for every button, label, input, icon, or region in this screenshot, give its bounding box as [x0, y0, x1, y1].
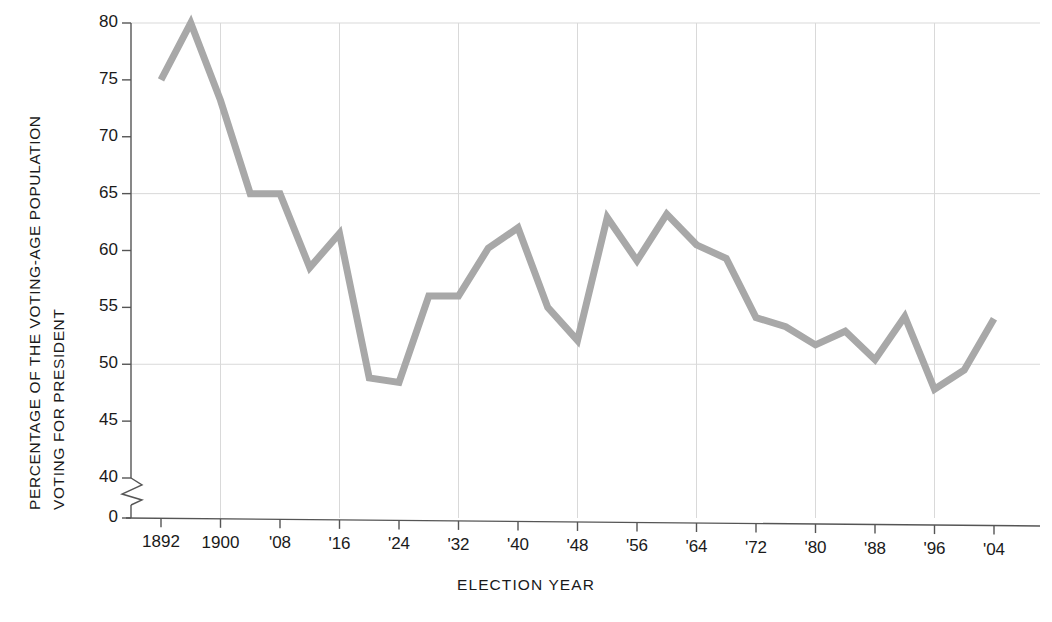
- chart-container: PERCENTAGE OF THE VOTING-AGE POPULATION …: [0, 0, 1052, 622]
- y-tick-label-75: 75: [60, 69, 118, 89]
- y-tick-label-60: 60: [60, 240, 118, 260]
- y-tick-label-70: 70: [60, 126, 118, 146]
- y-tick-label-55: 55: [60, 296, 118, 316]
- y-tick-label-50: 50: [60, 353, 118, 373]
- y-tick-label-65: 65: [60, 183, 118, 203]
- y-tick-label-40: 40: [60, 467, 118, 487]
- x-axis-label: ELECTION YEAR: [0, 576, 1052, 594]
- voter-turnout-line-chart: [0, 0, 1052, 622]
- y-axis-ticks: [122, 23, 131, 518]
- x-axis-ticks: [161, 518, 994, 534]
- y-axis-break-symbol: [122, 478, 142, 505]
- y-axis-label-line-1: PERCENTAGE OF THE VOTING-AGE POPULATION: [26, 115, 44, 510]
- chart-axes: [126, 23, 1040, 526]
- y-tick-label-45: 45: [60, 410, 118, 430]
- y-tick-label-80: 80: [60, 12, 118, 32]
- y-tick-label-0: 0: [60, 507, 118, 527]
- x-tick-label-2004: '04: [959, 540, 1029, 560]
- vertical-gridlines: [221, 23, 935, 518]
